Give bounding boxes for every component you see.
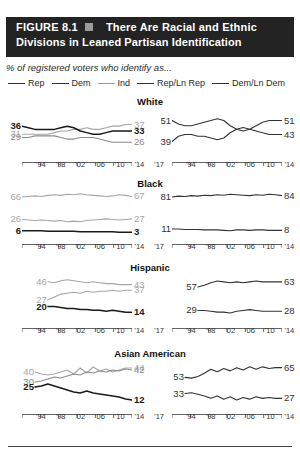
x-tick-label: '02	[75, 326, 85, 335]
x-tick-label: '94	[36, 242, 46, 251]
chart-panel-asian-american-left: 404430422512'94'98'02'06'10'14'17	[0, 360, 150, 422]
x-tick-label: '14	[135, 160, 145, 169]
x-tick-label: '10	[265, 160, 275, 169]
x-tick-label: '98	[56, 160, 66, 169]
x-tick-label: '06	[95, 242, 105, 251]
legend-label-rep-ln-rep: Rep/Ln Rep	[157, 78, 205, 88]
x-tick-label: '06	[245, 242, 255, 251]
series-line-dem-ln-dem	[185, 367, 282, 378]
x-tick-label: '10	[115, 412, 125, 421]
series-line-dem	[22, 136, 132, 142]
end-label-dem-ln-dem: 84	[284, 191, 295, 201]
end-label-rep-ln-rep: 51	[284, 116, 295, 126]
legend-label-dem-ln-dem: Dem/Ln Dem	[232, 78, 285, 88]
square-marker-icon	[85, 23, 93, 31]
end-label-rep-ln-rep: 27	[284, 393, 295, 403]
legend: Rep Dem Ind Rep/Ln Rep Dem/Ln Dem	[8, 78, 296, 88]
series-line-ind	[48, 290, 132, 300]
x-axis-tick-labels: '94'98'02'06'10'14'17	[36, 412, 164, 421]
chart-group-hispanic: Hispanic464327372014'94'98'02'06'10'14'1…	[0, 262, 300, 336]
chart-group-white: White313736332926'94'98'02'06'10'14'1751…	[0, 96, 300, 170]
plot-area	[172, 108, 282, 154]
x-axis: '94'98'02'06'10'14'17	[22, 320, 132, 336]
series-line-rep-ln-rep	[172, 119, 282, 131]
x-axis: '94'98'02'06'10'14'17	[22, 236, 132, 252]
x-tick-label: '94	[186, 242, 196, 251]
series-line-ind	[22, 219, 132, 222]
plot-area	[22, 108, 132, 154]
figure-title-line2: Divisions in Leaned Partisan Identificat…	[16, 36, 286, 48]
x-tick-label: '14	[285, 160, 295, 169]
x-axis-tick-labels: '94'98'02'06'10'14'17	[186, 242, 300, 251]
series-line-dem	[22, 194, 132, 197]
x-tick-label: '06	[245, 160, 255, 169]
start-label-rep: 36	[3, 121, 21, 131]
x-tick-label: '98	[206, 412, 216, 421]
x-tick-label: '98	[56, 242, 66, 251]
x-tick-label: '06	[245, 412, 255, 421]
chart-panel-hispanic-left: 464327372014'94'98'02'06'10'14'17	[0, 274, 150, 336]
end-label-rep-ln-rep: 8	[284, 225, 289, 235]
series-line-dem	[48, 280, 132, 285]
legend-item-dem-ln-dem: Dem/Ln Dem	[212, 78, 285, 88]
chart-panel-hispanic-right: 57632928'94'98'02'06'10'14'17	[150, 274, 300, 336]
x-tick-label: '10	[265, 412, 275, 421]
x-axis-tick-labels: '94'98'02'06'10'14'17	[186, 160, 300, 169]
legend-label-dem: Dem	[72, 78, 91, 88]
x-tick-label: '02	[75, 412, 85, 421]
series-line-dem-ln-dem	[172, 128, 282, 142]
x-tick-label: '98	[206, 160, 216, 169]
figure-banner: FIGURE 8.1 There Are Racial and Ethnic D…	[6, 17, 294, 57]
end-label-dem-ln-dem: 43	[284, 130, 295, 140]
x-tick-label: '10	[115, 160, 125, 169]
series-line-rep	[48, 307, 132, 313]
chart-group-asian-american: Asian American404430422512'94'98'02'06'1…	[0, 348, 300, 422]
x-tick-label: '02	[225, 242, 235, 251]
end-label-dem-ln-dem: 65	[284, 363, 295, 373]
end-label-rep: 33	[134, 126, 145, 136]
x-tick-label: '94	[186, 326, 196, 335]
end-label-rep: 12	[134, 395, 145, 405]
x-tick-label: '10	[265, 242, 275, 251]
x-tick-label: '02	[75, 160, 85, 169]
x-tick-label: '02	[225, 160, 235, 169]
start-label-rep: 6	[3, 226, 21, 236]
plot-area	[172, 360, 282, 406]
group-title: Hispanic	[0, 262, 300, 274]
x-tick-label: '98	[56, 326, 66, 335]
plot-area	[22, 274, 132, 320]
plot-area	[172, 274, 282, 320]
end-label-ind: 27	[134, 214, 145, 224]
group-title: Black	[0, 178, 300, 190]
x-tick-label: '14	[135, 326, 145, 335]
x-tick-label: '10	[115, 326, 125, 335]
series-line-rep-ln-rep	[185, 393, 282, 400]
x-tick-label: '14	[285, 412, 295, 421]
x-tick-label: '06	[95, 326, 105, 335]
legend-item-dem: Dem	[52, 78, 91, 88]
legend-swatch-dem-ln-dem	[212, 83, 229, 84]
legend-swatch-dem	[52, 83, 69, 84]
x-tick-label: '98	[56, 412, 66, 421]
plot-area	[22, 360, 132, 406]
x-tick-label: '02	[225, 326, 235, 335]
x-tick-label: '94	[186, 160, 196, 169]
series-line-dem-ln-dem	[172, 194, 282, 197]
series-line-dem-ln-dem	[198, 281, 282, 287]
legend-item-ind: Ind	[98, 78, 131, 88]
legend-item-rep-ln-rep: Rep/Ln Rep	[137, 78, 205, 88]
start-label-ind: 26	[3, 214, 21, 224]
legend-swatch-ind	[98, 83, 115, 84]
x-tick-label: '10	[115, 242, 125, 251]
x-axis-tick-labels: '94'98'02'06'10'14'17	[186, 326, 300, 335]
x-tick-label: '10	[265, 326, 275, 335]
x-tick-label: '14	[285, 326, 295, 335]
x-axis: '94'98'02'06'10'14'17	[172, 320, 282, 336]
chart-panel-asian-american-right: 53653327'94'98'02'06'10'14'17	[150, 360, 300, 422]
start-label-dem-ln-dem: 39	[153, 137, 171, 147]
chart-panel-black-left: 6667262763'94'98'02'06'10'14'17	[0, 190, 150, 252]
series-line-rep-ln-rep	[198, 310, 282, 313]
start-label-rep-ln-rep: 11	[153, 224, 171, 234]
x-tick-label: '14	[285, 242, 295, 251]
x-tick-label: '14	[135, 412, 145, 421]
